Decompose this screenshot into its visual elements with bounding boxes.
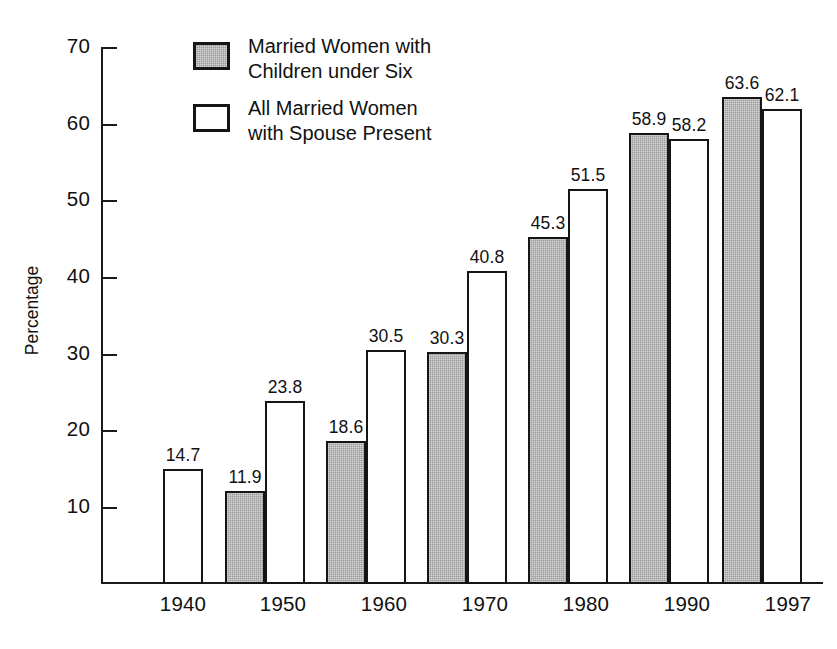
bar-value-1980-all-married: 51.5: [553, 165, 623, 186]
y-axis-line: [101, 47, 103, 584]
legend-swatch-hollow-icon: [193, 104, 230, 132]
x-tick-label-1950: 1950: [228, 592, 338, 616]
y-tick-70: [101, 47, 117, 49]
y-tick-label-50: 50: [44, 187, 90, 211]
bar-1997-children-under-six: [722, 97, 762, 584]
legend-label-children-under-six-line2: Children under Six: [248, 59, 431, 84]
bar-1950-children-under-six: [225, 491, 265, 584]
y-tick-20: [101, 430, 117, 432]
y-tick-label-70: 70: [44, 34, 90, 58]
bar-chart: Percentage 70 60 50 40 30 20 10 1940 195…: [0, 0, 837, 649]
bar-1997-all-married: [762, 109, 802, 584]
x-tick-label-1970: 1970: [430, 592, 540, 616]
chart-legend: Married Women with Children under Six Al…: [193, 36, 513, 160]
y-tick-30: [101, 354, 117, 356]
legend-item-children-under-six: Married Women with Children under Six: [193, 36, 513, 98]
bar-1960-children-under-six: [326, 441, 366, 584]
x-tick-label-1940: 1940: [128, 592, 238, 616]
bar-1960-all-married: [366, 350, 406, 584]
y-tick-label-10: 10: [44, 494, 90, 518]
bar-1990-all-married: [669, 139, 709, 584]
legend-label-all-married-women-line2: with Spouse Present: [248, 121, 431, 146]
y-tick-10: [101, 507, 117, 509]
x-tick-label-1980: 1980: [531, 592, 641, 616]
legend-label-all-married-women-line1: All Married Women: [248, 96, 431, 121]
y-tick-label-30: 30: [44, 341, 90, 365]
bar-1940-all-married: [163, 469, 203, 584]
y-tick-40: [101, 277, 117, 279]
y-tick-60: [101, 124, 117, 126]
legend-label-children-under-six-line1: Married Women with: [248, 34, 431, 59]
bar-value-1990-all-married: 58.2: [654, 115, 724, 136]
x-tick-label-1990: 1990: [632, 592, 742, 616]
bar-value-1960-all-married: 30.5: [351, 326, 421, 347]
bar-1950-all-married: [265, 401, 305, 584]
x-tick-label-1960: 1960: [329, 592, 439, 616]
legend-item-all-married-women: All Married Women with Spouse Present: [193, 98, 513, 160]
bar-value-1970-all-married: 40.8: [452, 247, 522, 268]
y-tick-50: [101, 200, 117, 202]
bar-1970-all-married: [467, 271, 507, 584]
y-tick-label-60: 60: [44, 111, 90, 135]
bar-value-1997-all-married: 62.1: [747, 85, 817, 106]
bar-1970-children-under-six: [427, 352, 467, 584]
bar-1980-children-under-six: [528, 237, 568, 584]
bar-value-1950-all-married: 23.8: [250, 377, 320, 398]
legend-swatch-filled-icon: [193, 42, 230, 70]
y-tick-label-20: 20: [44, 417, 90, 441]
y-axis-title: Percentage: [22, 241, 43, 381]
bar-value-1940-all-married: 14.7: [148, 445, 218, 466]
bar-1990-children-under-six: [629, 133, 669, 584]
x-tick-label-1997: 1997: [733, 592, 837, 616]
y-tick-label-40: 40: [44, 264, 90, 288]
bar-1980-all-married: [568, 189, 608, 584]
